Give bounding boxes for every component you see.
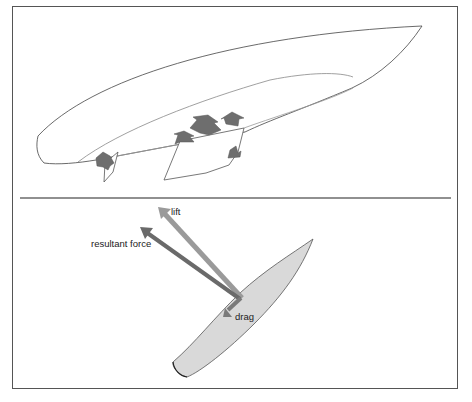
diagram-canvas: lift resultant force drag [0, 0, 472, 402]
lift-arrow-icon [158, 207, 242, 298]
drag-label: drag [235, 311, 254, 322]
pressure-arrow-icon [221, 112, 244, 126]
lift-label: lift [171, 206, 181, 217]
resultant-force-label: resultant force [91, 238, 151, 249]
pressure-arrow-icon [174, 131, 194, 144]
fins [104, 128, 244, 182]
board-top-view [173, 239, 313, 377]
pressure-arrow-icon [190, 115, 221, 135]
